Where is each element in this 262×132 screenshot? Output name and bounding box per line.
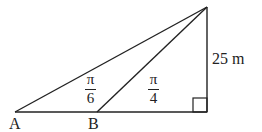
- angle-b-numerator: π: [150, 72, 158, 87]
- angle-b-denominator: 4: [150, 91, 158, 106]
- angle-a-denominator: 6: [87, 91, 95, 106]
- angle-a-numerator: π: [87, 72, 95, 87]
- hypotenuse-from-a: [15, 7, 207, 112]
- point-b-label: B: [88, 116, 99, 132]
- angle-a-label: π 6: [85, 72, 96, 106]
- height-label: 25 m: [212, 51, 244, 67]
- point-a-label: A: [9, 116, 21, 132]
- right-angle-marker: [193, 98, 207, 112]
- angle-b-label: π 4: [148, 72, 159, 106]
